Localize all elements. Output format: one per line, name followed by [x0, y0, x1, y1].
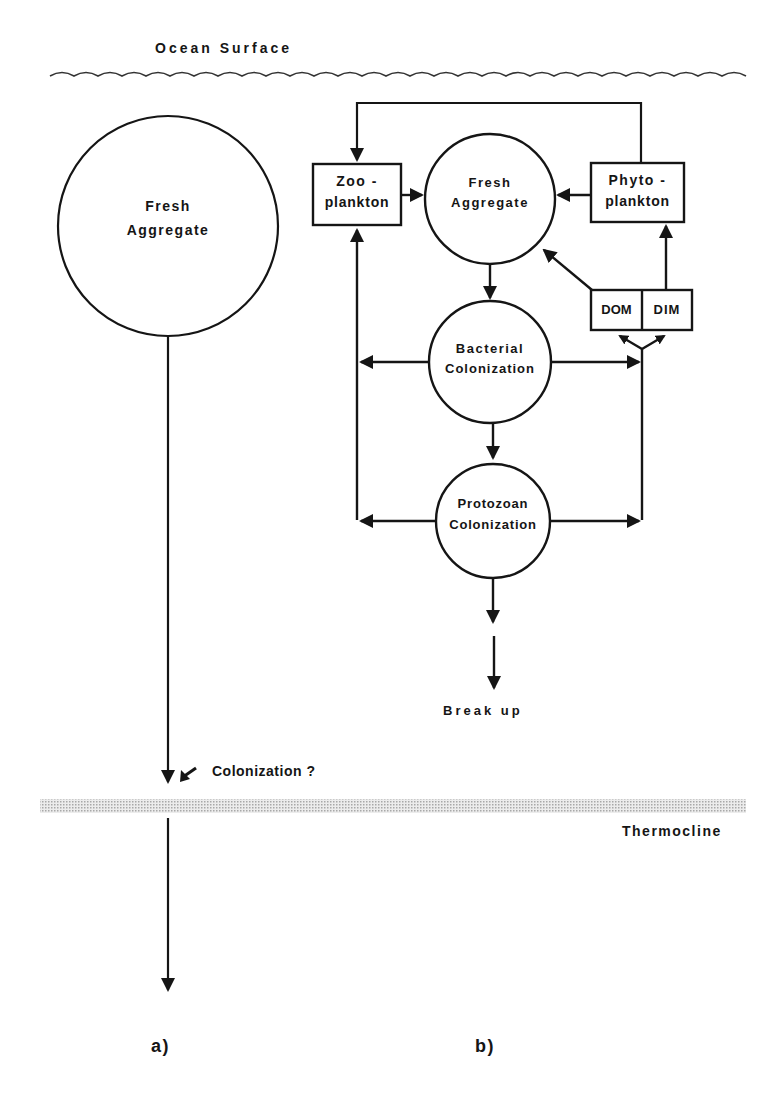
phytoplankton-label-line2: plankton: [591, 193, 684, 210]
panel-b-label: b): [475, 1036, 495, 1058]
bacterial-label-line1: Bacterial: [430, 341, 550, 357]
break-up-label: Break up: [443, 703, 523, 719]
fresh-aggregate-label-a-line1: Fresh: [118, 198, 218, 215]
panel-a-label: a): [151, 1036, 170, 1058]
colonization-question-label: Colonization ?: [212, 763, 315, 780]
protozoan-label-line2: Colonization: [428, 517, 558, 533]
fork-to-dom-arrow: [620, 336, 642, 349]
fresh-aggregate-label-b-line1: Fresh: [440, 175, 540, 191]
zooplankton-label-line2: plankton: [313, 194, 401, 211]
dom-to-fresh-arrow: [544, 250, 592, 290]
thermocline-label: Thermocline: [622, 823, 722, 840]
phytoplankton-label-line1: Phyto -: [591, 172, 684, 189]
protozoan-label-line1: Protozoan: [433, 496, 553, 512]
fork-to-dim-arrow: [642, 336, 664, 349]
dom-label: DOM: [591, 302, 642, 318]
fresh-aggregate-label-a-line2: Aggregate: [108, 222, 228, 239]
fresh-aggregate-label-b-line2: Aggregate: [430, 195, 550, 211]
diagram-canvas: [0, 0, 769, 1105]
zooplankton-label-line1: Zoo -: [313, 173, 401, 190]
ocean-surface-label: Ocean Surface: [155, 40, 292, 57]
bacterial-label-line2: Colonization: [425, 361, 555, 377]
thermocline-band: [40, 799, 746, 813]
ocean-surface-wave: [50, 73, 746, 77]
dim-label: DIM: [642, 302, 692, 318]
